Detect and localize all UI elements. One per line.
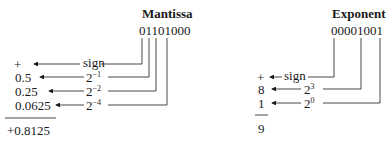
exponent-row-value: 1 bbox=[258, 97, 265, 110]
mantissa-title: Mantissa bbox=[142, 7, 193, 20]
exponent-bits: 00001001 bbox=[331, 24, 383, 37]
mantissa-row-power: 2−4 bbox=[86, 99, 101, 112]
mantissa-row-power: 2−1 bbox=[86, 71, 101, 84]
connector-lines bbox=[0, 0, 392, 145]
mantissa-row-value: 0.5 bbox=[15, 71, 31, 84]
mantissa-row-value: 0.25 bbox=[15, 85, 38, 98]
mantissa-sign-label: sign bbox=[83, 56, 105, 69]
mantissa-bits: 01101000 bbox=[139, 24, 191, 37]
mantissa-row-power: 2−2 bbox=[86, 85, 101, 98]
mantissa-total: +0.8125 bbox=[7, 124, 50, 137]
exponent-title: Exponent bbox=[332, 7, 385, 20]
exponent-row-value: 8 bbox=[258, 83, 265, 96]
exponent-sign-label: sign bbox=[284, 69, 306, 82]
exponent-row-power: 23 bbox=[304, 83, 315, 96]
exponent-total: 9 bbox=[258, 122, 265, 135]
mantissa-row-value: 0.0625 bbox=[15, 99, 51, 112]
exponent-row-power: 20 bbox=[304, 97, 315, 110]
